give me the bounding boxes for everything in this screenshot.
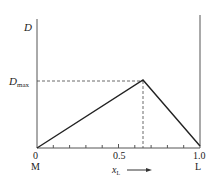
- x-ticks: [53, 144, 183, 148]
- right-arrow-icon: [127, 168, 152, 172]
- x-tick-05: 0.5: [113, 150, 126, 161]
- y-axis-label: D: [23, 21, 32, 33]
- right-end-label: L: [195, 161, 201, 172]
- diagram: D Dmax 0 0.5 1.0 M L xL: [0, 0, 215, 183]
- dmax-label: Dmax: [8, 75, 30, 89]
- x-tick-10: 1.0: [193, 150, 206, 161]
- left-end-label: M: [31, 161, 40, 172]
- x-tick-0: 0: [33, 150, 38, 161]
- x-axis-label: xL: [111, 164, 120, 176]
- d-curve: [37, 80, 200, 148]
